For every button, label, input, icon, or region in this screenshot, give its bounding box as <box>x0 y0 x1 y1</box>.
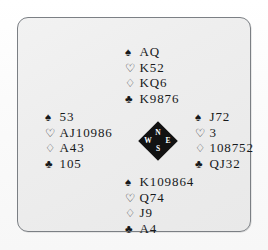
bridge-deal-panel: ♠ AQ ♡ K52 ♢ KQ6 ♣ K9876 ♠ 53 ♡ <box>17 17 251 232</box>
page-background: ♠ AQ ♡ K52 ♢ KQ6 ♣ K9876 ♠ 53 ♡ <box>0 0 268 250</box>
west-spades: 53 <box>57 109 74 125</box>
south-heart-row: ♡ Q74 <box>125 190 194 206</box>
west-spade-row: ♠ 53 <box>45 109 113 125</box>
east-spades: J72 <box>207 109 230 125</box>
east-club-row: ♣ QJ32 <box>195 156 254 172</box>
north-hearts: K52 <box>137 60 165 76</box>
north-diamonds: KQ6 <box>137 75 167 91</box>
east-diamond-row: ♢ 108752 <box>195 140 254 156</box>
compass-rose: N W E S <box>138 121 178 161</box>
compass-west-label: W <box>143 137 153 145</box>
east-diamonds: 108752 <box>207 140 254 156</box>
south-hearts: Q74 <box>137 190 165 206</box>
west-club-row: ♣ 105 <box>45 156 113 172</box>
hand-west: ♠ 53 ♡ AJ10986 ♢ A43 ♣ 105 <box>45 109 113 171</box>
spade-icon: ♠ <box>45 110 57 126</box>
club-icon: ♣ <box>125 92 137 108</box>
compass-north-label: N <box>153 129 163 137</box>
diamond-icon: ♢ <box>125 76 137 92</box>
north-club-row: ♣ K9876 <box>125 91 179 107</box>
east-heart-row: ♡ 3 <box>195 125 254 141</box>
east-clubs: QJ32 <box>207 156 241 172</box>
diamond-icon: ♢ <box>195 141 207 157</box>
west-diamonds: A43 <box>57 140 85 156</box>
south-spade-row: ♠ K109864 <box>125 174 194 190</box>
south-diamonds: J9 <box>137 205 153 221</box>
south-diamond-row: ♢ J9 <box>125 205 194 221</box>
spade-icon: ♠ <box>125 175 137 191</box>
hand-east: ♠ J72 ♡ 3 ♢ 108752 ♣ QJ32 <box>195 109 254 171</box>
heart-icon: ♡ <box>125 191 137 207</box>
south-club-row: ♣ A4 <box>125 221 194 237</box>
club-icon: ♣ <box>125 222 137 238</box>
club-icon: ♣ <box>45 157 57 173</box>
north-spades: AQ <box>137 44 160 60</box>
west-hearts: AJ10986 <box>57 125 113 141</box>
west-heart-row: ♡ AJ10986 <box>45 125 113 141</box>
spade-icon: ♠ <box>195 110 207 126</box>
east-hearts: 3 <box>207 125 217 141</box>
heart-icon: ♡ <box>195 126 207 142</box>
west-diamond-row: ♢ A43 <box>45 140 113 156</box>
club-icon: ♣ <box>195 157 207 173</box>
heart-icon: ♡ <box>45 126 57 142</box>
north-heart-row: ♡ K52 <box>125 60 179 76</box>
west-clubs: 105 <box>57 156 82 172</box>
spade-icon: ♠ <box>125 45 137 61</box>
north-spade-row: ♠ AQ <box>125 44 179 60</box>
diamond-icon: ♢ <box>45 141 57 157</box>
heart-icon: ♡ <box>125 61 137 77</box>
north-diamond-row: ♢ KQ6 <box>125 75 179 91</box>
south-spades: K109864 <box>137 174 194 190</box>
compass-south-label: S <box>153 145 163 153</box>
diamond-icon: ♢ <box>125 206 137 222</box>
hand-north: ♠ AQ ♡ K52 ♢ KQ6 ♣ K9876 <box>125 44 179 106</box>
south-clubs: A4 <box>137 221 157 237</box>
east-spade-row: ♠ J72 <box>195 109 254 125</box>
north-clubs: K9876 <box>137 91 179 107</box>
compass-east-label: E <box>163 137 173 145</box>
hand-south: ♠ K109864 ♡ Q74 ♢ J9 ♣ A4 <box>125 174 194 236</box>
